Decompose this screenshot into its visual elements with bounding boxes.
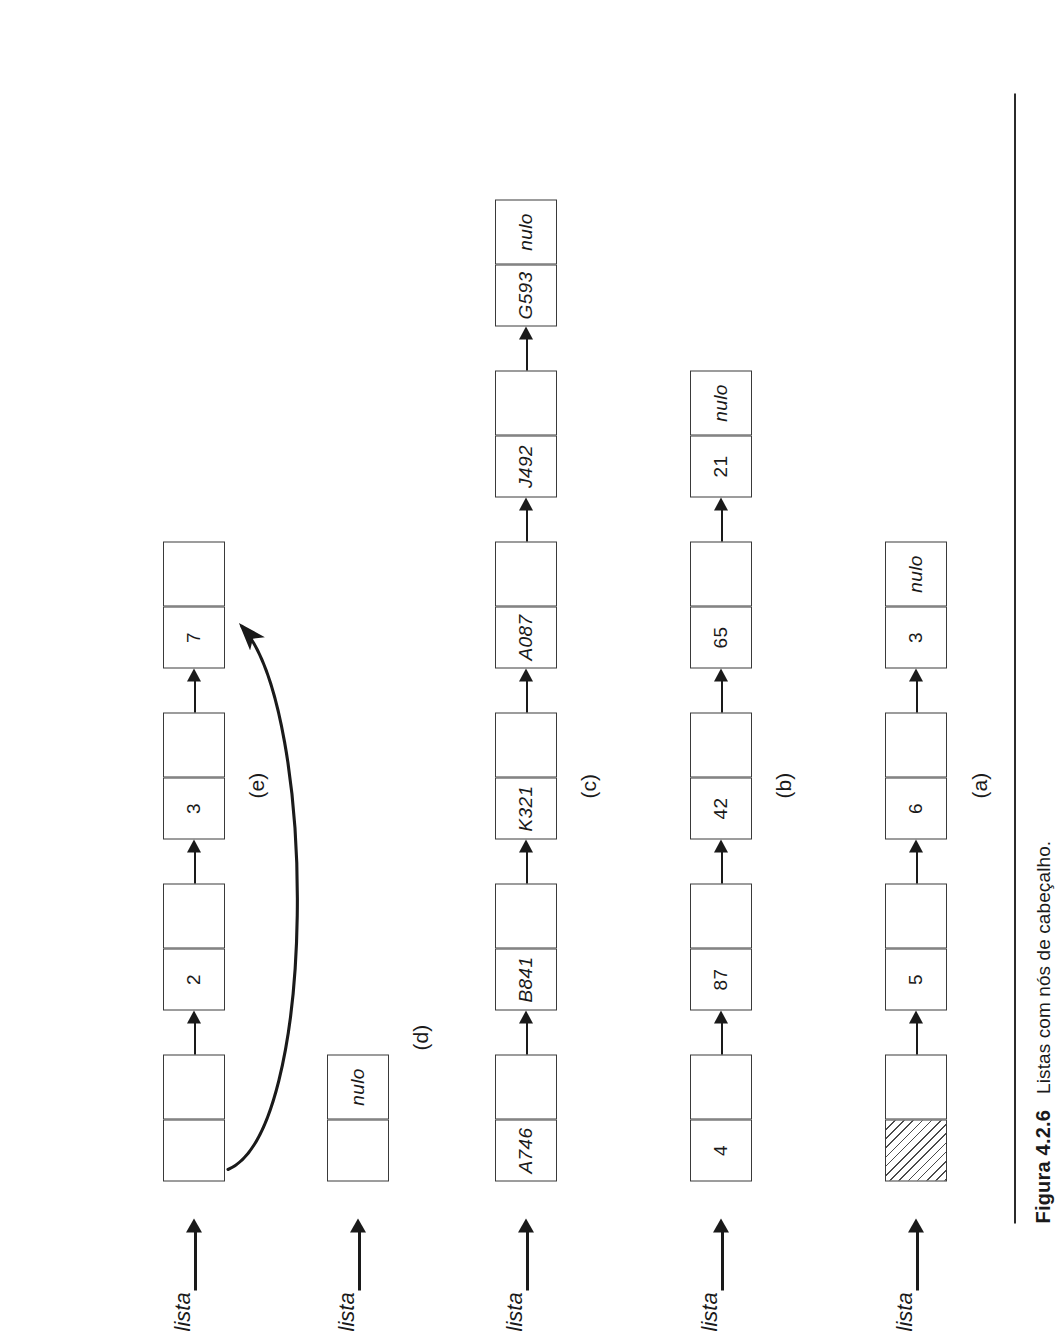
- list-node: B841: [495, 883, 557, 1010]
- node-data-cell: A087: [495, 606, 557, 668]
- node-link-arrow-icon: [885, 839, 947, 883]
- node-data-cell: 65: [690, 606, 752, 668]
- node-data-cell: K321: [495, 777, 557, 839]
- node-link-arrow-icon: [495, 668, 557, 712]
- node-link-arrow-icon: [690, 497, 752, 541]
- node-data-cell: A746: [495, 1119, 557, 1181]
- node-link-cell: [495, 1054, 557, 1119]
- node-link-cell: [690, 541, 752, 606]
- pointer-arrow-icon: [885, 1218, 947, 1290]
- list-node: 2: [163, 883, 225, 1010]
- caption-rule: [1014, 93, 1016, 1223]
- node-data-cell: [163, 1119, 225, 1181]
- list-node: K321: [495, 712, 557, 839]
- node-link-cell: [163, 541, 225, 606]
- row-letter-b: (b): [772, 772, 796, 798]
- row-letter-a: (a): [968, 772, 992, 798]
- node-link-arrow-icon: [495, 497, 557, 541]
- list-node: 6: [885, 712, 947, 839]
- node-data-cell: [327, 1119, 389, 1181]
- lista-pointer-label: lista: [894, 1292, 916, 1331]
- node-data-cell: 42: [690, 777, 752, 839]
- node-link-arrow-icon: [690, 668, 752, 712]
- row-letter-e: (e): [245, 772, 269, 798]
- node-link-cell: [885, 1054, 947, 1119]
- node-data-cell: G593: [495, 264, 557, 326]
- lista-pointer-label: lista: [504, 1292, 526, 1331]
- node-link-cell: [885, 712, 947, 777]
- node-null-link-cell: nulo: [690, 370, 752, 435]
- list-node: 65: [690, 541, 752, 668]
- linked-list-row-a: lista 5 6: [885, 541, 947, 1181]
- node-link-arrow-icon: [885, 1010, 947, 1054]
- node-data-cell: 6: [885, 777, 947, 839]
- lista-pointer-a: lista: [885, 1218, 947, 1331]
- node-null-link-cell: nulo: [495, 199, 557, 264]
- pointer-arrow-icon: [690, 1218, 752, 1290]
- list-node-tail: 3 nulo: [885, 541, 947, 668]
- list-node: 3: [163, 712, 225, 839]
- list-node-header: [885, 1054, 947, 1181]
- node-null-link-cell: nulo: [885, 541, 947, 606]
- pointer-arrow-icon: [495, 1218, 557, 1290]
- node-link-arrow-icon: [495, 839, 557, 883]
- node-link-cell: [690, 1054, 752, 1119]
- caption-text: Listas com nós de cabeçalho.: [1033, 840, 1055, 1093]
- list-node: A087: [495, 541, 557, 668]
- linked-list-row-b: lista 4 87 42: [690, 370, 752, 1181]
- node-link-cell: [690, 883, 752, 948]
- figure-caption: Figura 4.2.6 Listas com nós de cabeçalho…: [1032, 840, 1055, 1223]
- node-link-arrow-icon: [163, 1010, 225, 1054]
- linked-list-row-e: lista 2 3: [163, 541, 225, 1181]
- node-link-arrow-icon: [690, 1010, 752, 1054]
- lista-pointer-d: lista: [327, 1218, 389, 1331]
- node-link-arrow-icon: [495, 1010, 557, 1054]
- lista-pointer-e: lista: [163, 1218, 225, 1331]
- node-data-cell: 7: [163, 606, 225, 668]
- caption-number: Figura 4.2.6: [1032, 1109, 1055, 1223]
- pointer-arrow-icon: [163, 1218, 225, 1290]
- node-link-cell: [690, 712, 752, 777]
- list-node-tail: G593 nulo: [495, 199, 557, 326]
- node-link-arrow-icon: [163, 668, 225, 712]
- node-data-cell: B841: [495, 948, 557, 1010]
- list-node-tail: 7: [163, 541, 225, 668]
- lista-pointer-label: lista: [172, 1292, 194, 1331]
- node-data-cell: 87: [690, 948, 752, 1010]
- node-data-cell: 3: [885, 606, 947, 668]
- node-link-cell: [495, 541, 557, 606]
- node-null-link-cell: nulo: [327, 1054, 389, 1119]
- linked-list-row-d: lista nulo: [327, 1054, 389, 1181]
- row-letter-d: (d): [409, 1024, 433, 1050]
- node-data-cell: 2: [163, 948, 225, 1010]
- lista-pointer-label: lista: [699, 1292, 721, 1331]
- list-node: 87: [690, 883, 752, 1010]
- node-data-cell: 3: [163, 777, 225, 839]
- lista-pointer-label: lista: [336, 1292, 358, 1331]
- node-link-arrow-icon: [885, 668, 947, 712]
- node-link-cell: [495, 370, 557, 435]
- lista-pointer-c: lista: [495, 1218, 557, 1331]
- pointer-arrow-icon: [327, 1218, 389, 1290]
- node-link-arrow-icon: [690, 839, 752, 883]
- node-data-cell: [885, 1119, 947, 1181]
- node-link-cell: [163, 883, 225, 948]
- node-link-cell: [495, 712, 557, 777]
- node-link-cell: [163, 1054, 225, 1119]
- row-letter-c: (c): [577, 774, 601, 799]
- list-node-header: [163, 1054, 225, 1181]
- node-data-cell: 5: [885, 948, 947, 1010]
- node-data-cell: 21: [690, 435, 752, 497]
- node-link-cell: [495, 883, 557, 948]
- node-link-cell: [163, 712, 225, 777]
- list-node-header: nulo: [327, 1054, 389, 1181]
- node-data-cell: J492: [495, 435, 557, 497]
- node-data-cell: 4: [690, 1119, 752, 1181]
- list-node: 42: [690, 712, 752, 839]
- list-node-header: A746: [495, 1054, 557, 1181]
- list-node-tail: 21 nulo: [690, 370, 752, 497]
- list-node: 5: [885, 883, 947, 1010]
- node-link-arrow-icon: [163, 839, 225, 883]
- node-link-arrow-icon: [495, 326, 557, 370]
